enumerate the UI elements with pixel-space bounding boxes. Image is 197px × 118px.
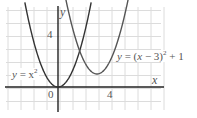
- curve1-label: y = x2: [11, 68, 39, 80]
- curve2-label-tail: + 1: [167, 50, 184, 62]
- curve2-label: y = (x − 3)2 + 1: [116, 50, 185, 62]
- curve1-label-exp: 2: [34, 67, 38, 75]
- curve2-label-rest: − 3): [142, 50, 163, 62]
- x-tick-4: 4: [107, 89, 113, 100]
- y-axis-label: y: [60, 6, 65, 18]
- x-axis-label: x: [152, 74, 157, 86]
- y-tick-4: 4: [47, 29, 53, 40]
- curve2-label-eq: = (: [122, 50, 137, 62]
- curve1-label-eq: = x: [17, 68, 34, 80]
- origin-label: 0: [48, 89, 54, 100]
